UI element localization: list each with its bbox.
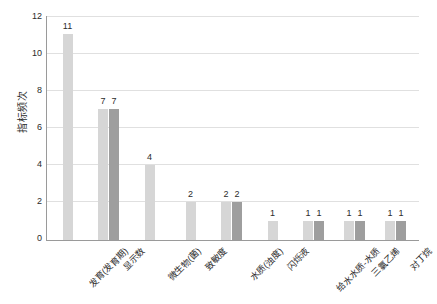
bar-value-label: 1 (270, 209, 275, 218)
x-tick-label: 水质(浊度) (248, 246, 285, 283)
bar[interactable]: 2 (232, 202, 242, 240)
x-tick-label: 对丁烷 (408, 246, 434, 272)
y-tick-label: 2 (20, 197, 42, 206)
bar-group: 2 2 (211, 202, 252, 240)
bar-group: 11 (47, 34, 88, 240)
bar-group: 1 1 (375, 221, 416, 240)
bar-value-label: 2 (223, 190, 228, 199)
bar-value-label: 11 (63, 22, 72, 31)
bar-value-label: 7 (111, 97, 116, 106)
bar-group: 1 1 (334, 221, 375, 240)
x-tick-label: 闪烁液 (285, 246, 311, 272)
bar[interactable]: 1 (344, 221, 354, 240)
bar-value-label: 2 (188, 190, 193, 199)
bar[interactable]: 1 (303, 221, 313, 240)
bar-group: 1 (252, 221, 293, 240)
bar-group: 4 (129, 165, 170, 240)
bar-group: 1 1 (293, 221, 334, 240)
bar-value-label: 2 (234, 190, 239, 199)
bar-value-label: 1 (398, 209, 403, 218)
y-tick-label: 12 (20, 12, 42, 21)
bar[interactable]: 1 (314, 221, 324, 240)
y-tick-label: 10 (20, 49, 42, 58)
bar[interactable]: 1 (268, 221, 278, 240)
bar[interactable]: 2 (186, 202, 196, 240)
plot-area: 11 7 7 4 2 2 (46, 16, 419, 241)
bar-value-label: 1 (316, 209, 321, 218)
y-tick-label: 4 (20, 160, 42, 169)
bar-value-label: 1 (387, 209, 392, 218)
x-tick-label: 微生物(菌) (166, 246, 203, 283)
bar[interactable]: 1 (355, 221, 365, 240)
bar[interactable]: 4 (145, 165, 155, 240)
gridline (47, 90, 419, 91)
bar[interactable]: 7 (109, 109, 119, 240)
bar-value-label: 1 (346, 209, 351, 218)
bar-chart: 12 10 8 6 4 2 0 指标频次 11 7 7 (0, 0, 437, 304)
bar[interactable]: 2 (221, 202, 231, 240)
bar[interactable]: 11 (63, 34, 73, 240)
bar-group: 2 (170, 202, 211, 240)
bar-value-label: 1 (357, 209, 362, 218)
bar-group: 7 7 (88, 109, 129, 240)
bar[interactable]: 1 (396, 221, 406, 240)
x-tick-label: 致敏度 (203, 246, 229, 272)
bar[interactable]: 7 (98, 109, 108, 240)
bar-value-label: 1 (305, 209, 310, 218)
y-tick-label: 0 (20, 234, 42, 243)
bar-value-label: 4 (147, 153, 152, 162)
bar[interactable]: 1 (385, 221, 395, 240)
bar-value-label: 7 (100, 97, 105, 106)
gridline (47, 16, 419, 17)
y-axis-title: 指标频次 (14, 67, 29, 157)
gridline (47, 53, 419, 54)
